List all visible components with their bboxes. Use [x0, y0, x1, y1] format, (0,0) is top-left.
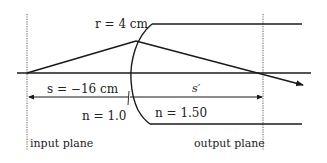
output-plane-label: output plane — [194, 137, 265, 150]
n-left-label: n = 1.0 — [82, 109, 127, 123]
surface-tick — [128, 91, 129, 105]
object-distance-label: s = −16 cm — [47, 82, 119, 96]
refracted-ray — [136, 41, 303, 85]
n-right-label: n = 1.50 — [155, 106, 207, 120]
optics-diagram: r = 4 cm s = −16 cm s′ n = 1.0 n = 1.50 … — [0, 0, 327, 163]
incident-ray — [27, 41, 136, 73]
input-plane-label: input plane — [30, 137, 93, 150]
radius-label: r = 4 cm — [95, 17, 149, 31]
refracting-surface-arc — [131, 24, 152, 124]
image-distance-label: s′ — [192, 82, 201, 95]
